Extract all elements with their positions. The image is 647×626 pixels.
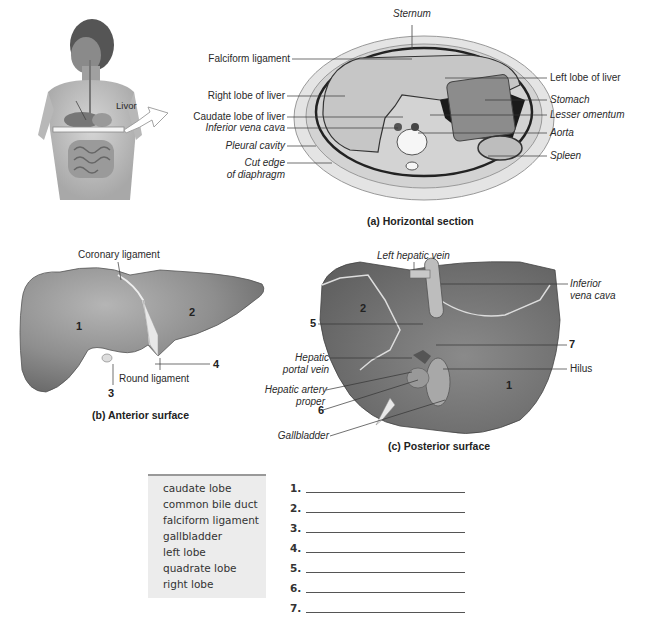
number-5-posterior: 5 [310, 317, 316, 329]
answer-number: 1. [290, 482, 301, 494]
answer-blank-7[interactable] [306, 612, 465, 613]
label-stomach: Stomach [550, 94, 589, 106]
answer-number: 7. [290, 602, 301, 614]
answer-row-5: 5. [290, 560, 465, 574]
label-hepatic-artery-line1: Hepatic artery [265, 384, 327, 396]
word-bank-item: gallbladder [163, 530, 222, 542]
answer-blank-6[interactable] [306, 592, 465, 593]
answer-number: 6. [290, 582, 301, 594]
number-1-anterior: 1 [76, 320, 82, 332]
caption-anterior-surface: (b) Anterior surface [92, 409, 189, 421]
word-bank-item: common bile duct [163, 498, 258, 510]
number-2-posterior: 2 [360, 302, 366, 314]
caption-horizontal-section: (a) Horizontal section [367, 215, 474, 227]
label-pleural-cavity: Pleural cavity [226, 140, 285, 152]
label-hilus: Hilus [570, 363, 592, 375]
label-aorta: Aorta [550, 127, 574, 139]
caption-posterior-surface: (c) Posterior surface [388, 440, 490, 452]
label-left-hepatic-vein: Left hepatic vein [377, 250, 450, 262]
answer-number: 5. [290, 562, 301, 574]
aorta-small [411, 123, 419, 131]
label-falciform-ligament: Falciform ligament [208, 53, 290, 65]
answer-row-3: 3. [290, 520, 465, 534]
word-bank-item: left lobe [163, 546, 206, 558]
number-1-posterior: 1 [506, 379, 512, 391]
answer-number: 3. [290, 522, 301, 534]
spleen [478, 136, 522, 160]
label-left-lobe: Left lobe of liver [550, 72, 621, 84]
human-figure [38, 19, 168, 200]
label-of-diaphragm: of diaphragm [227, 169, 285, 181]
label-hepatic-portal-line1: Hepatic [295, 352, 329, 364]
number-4-anterior: 4 [213, 358, 219, 370]
label-ivc-line2: vena cava [570, 290, 616, 302]
number-3-anterior: 3 [108, 387, 114, 399]
label-lesser-omentum: Lesser omentum [550, 109, 624, 121]
word-bank-item: falciform ligament [163, 514, 259, 526]
answer-row-1: 1. [290, 480, 465, 494]
answer-blank-5[interactable] [306, 572, 465, 573]
word-bank-item: right lobe [163, 578, 213, 590]
label-gallbladder: Gallbladder [278, 430, 329, 442]
label-round-ligament: Round ligament [119, 373, 189, 385]
word-bank: caudate lobe common bile duct falciform … [148, 474, 266, 598]
answer-blank-4[interactable] [306, 552, 465, 553]
label-sternum: Sternum [393, 8, 431, 20]
answer-blank-1[interactable] [306, 492, 465, 493]
answer-blank-2[interactable] [306, 512, 465, 513]
answer-row-2: 2. [290, 500, 465, 514]
answer-row-4: 4. [290, 540, 465, 554]
gallbladder-shape [426, 358, 450, 406]
label-ivc-line1: Inferior [570, 278, 601, 290]
label-hepatic-portal-line2: portal vein [283, 364, 329, 376]
number-2-anterior: 2 [189, 306, 195, 318]
answer-number: 4. [290, 542, 301, 554]
stomach [446, 74, 516, 142]
livor-label: Livor [116, 100, 137, 112]
answer-blank-3[interactable] [306, 532, 465, 533]
answer-row-6: 6. [290, 580, 465, 594]
answer-row-7: 7. [290, 600, 465, 614]
number-6-posterior: 6 [318, 404, 324, 416]
word-bank-item: quadrate lobe [163, 562, 237, 574]
answer-number: 2. [290, 502, 301, 514]
section-plane [53, 127, 124, 132]
label-cut-edge: Cut edge [244, 157, 285, 169]
word-bank-item: caudate lobe [163, 482, 231, 494]
label-inferior-vena-cava: Inferior vena cava [206, 122, 286, 134]
number-7-posterior: 7 [569, 338, 575, 350]
label-right-lobe: Right lobe of liver [208, 90, 285, 102]
label-coronary-ligament: Coronary ligament [78, 249, 160, 261]
horizontal-section [294, 25, 554, 200]
ivc-small [394, 123, 402, 131]
label-spleen: Spleen [550, 150, 581, 162]
